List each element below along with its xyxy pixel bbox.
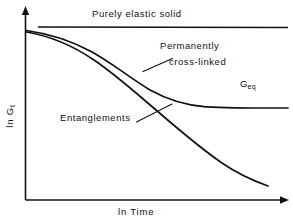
g-eq-subscript: eq [248,83,256,90]
x-axis-label: ln Time [118,207,154,218]
annotation-entanglements: Entanglements [60,113,131,124]
curve-permanently-cross-linked [27,31,289,109]
annotation-cross-linked: cross-linked [169,57,226,68]
annotation-g-eq: Geq [240,79,256,91]
annotation-permanently: Permanently [160,41,219,52]
relaxation-modulus-plot [0,0,293,223]
curve-purely-elastic-solid [38,27,288,28]
x-axis-arrow-icon [280,196,289,203]
figure-container: Purely elastic solid Permanently cross-l… [0,0,293,223]
annotation-purely-elastic-solid: Purely elastic solid [92,9,182,20]
g-eq-symbol: G [240,78,248,89]
y-axis-label-prefix: ln G [4,107,15,128]
y-axis-label-subscript: t [9,104,16,107]
y-axis-label: ln Gt [5,93,17,139]
curve-entanglements [27,32,269,186]
y-axis-arrow-icon [22,6,29,15]
